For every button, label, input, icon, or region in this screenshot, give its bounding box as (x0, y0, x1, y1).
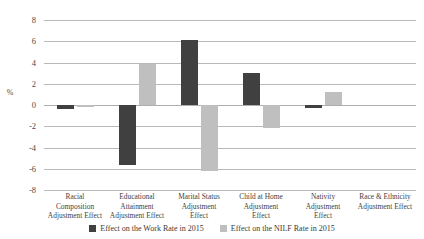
legend-entry[interactable]: Effect on the NILF Rate in 2015 (220, 224, 335, 233)
y-axis-tick-label: 8 (32, 16, 36, 25)
bar (119, 105, 136, 165)
y-axis-tick-label: 2 (32, 79, 36, 88)
bar-group (44, 20, 106, 190)
x-axis-label-line: Adjustment Effect (348, 202, 422, 212)
bar (77, 105, 94, 107)
y-axis-tick-label: 0 (32, 101, 36, 110)
bar-group (168, 20, 230, 190)
legend-label: Effect on the Work Rate in 2015 (100, 224, 203, 233)
bar (57, 105, 74, 109)
bar (201, 105, 218, 171)
chart-legend: Effect on the Work Rate in 2015Effect on… (0, 224, 424, 233)
bar-group (354, 20, 416, 190)
bar (263, 105, 280, 128)
y-axis-tick-label: 6 (32, 37, 36, 46)
bar (181, 40, 198, 105)
legend-swatch-icon (220, 225, 227, 232)
legend-entry[interactable]: Effect on the Work Rate in 2015 (89, 224, 203, 233)
y-axis-tick-label: -6 (29, 164, 36, 173)
y-axis-tick-label: 4 (32, 58, 36, 67)
bar (305, 105, 322, 108)
bar-group (106, 20, 168, 190)
legend-swatch-icon (89, 225, 96, 232)
bar (325, 92, 342, 105)
y-axis-tick-label: -2 (29, 122, 36, 131)
y-axis-tick-label: -8 (29, 186, 36, 195)
bar (243, 73, 260, 105)
bars-layer (44, 20, 416, 190)
bar-group (292, 20, 354, 190)
legend-label: Effect on the NILF Rate in 2015 (231, 224, 335, 233)
y-axis-tick-label: -4 (29, 143, 36, 152)
bar-group (230, 20, 292, 190)
x-axis-label-line: Race & Ethnicity (348, 192, 422, 202)
x-axis-category-label: Race & EthnicityAdjustment Effect (348, 192, 422, 211)
gridline (44, 190, 416, 191)
plot-area (44, 20, 416, 190)
bar-chart: % 86420-2-4-6-8 RacialCompositionAdjustm… (0, 0, 424, 239)
y-axis-tick-labels: 86420-2-4-6-8 (0, 20, 42, 190)
bar (139, 64, 156, 105)
x-axis-label-line: Effect (286, 211, 360, 221)
x-axis-category-labels: RacialCompositionAdjustment EffectEducat… (44, 192, 416, 224)
